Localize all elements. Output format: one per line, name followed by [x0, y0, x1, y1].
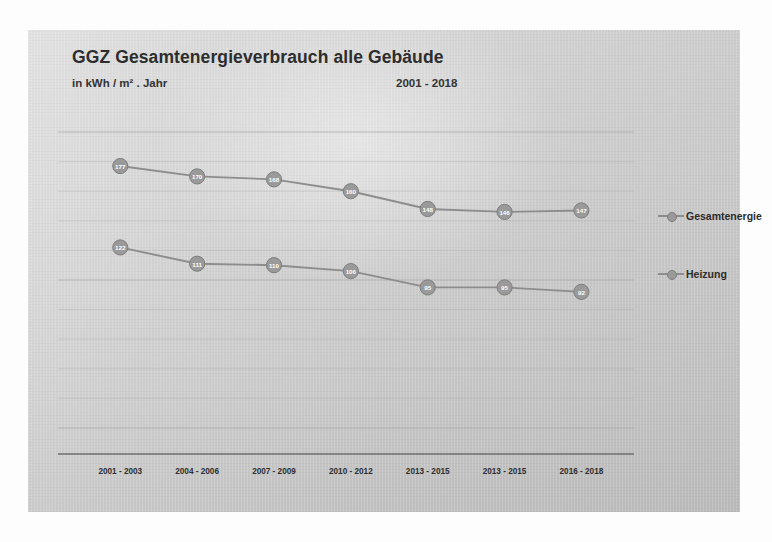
series-layer: 177170168160148146147122111110106959592: [113, 158, 589, 299]
data-point-label: 122: [115, 244, 126, 251]
legend-label: Gesamtenergie: [686, 210, 762, 222]
data-point-label: 177: [115, 163, 126, 170]
x-axis-label: 2001 - 2003: [98, 467, 142, 476]
legend-label: Heizung: [686, 268, 727, 280]
data-point-label: 168: [269, 176, 280, 183]
x-axis-labels: 2001 - 20032004 - 20062007 - 20092010 - …: [98, 467, 603, 476]
chart-photo-screen: GGZ Gesamtenergieverbrauch alle Gebäude …: [0, 0, 772, 542]
data-point-label: 111: [192, 261, 202, 268]
legend-item-heizung[interactable]: Heizung: [658, 266, 772, 282]
data-point-label: 92: [578, 289, 585, 296]
line-chart-svg: 177170168160148146147122111110106959592 …: [50, 98, 650, 498]
data-point-label: 160: [346, 188, 357, 195]
chart-subtitle: in kWh / m² . Jahr: [72, 77, 167, 89]
data-point-label: 148: [423, 206, 434, 213]
data-point-label: 106: [346, 268, 357, 275]
chart-period: 2001 - 2018: [396, 77, 457, 89]
x-axis-label: 2007 - 2009: [252, 467, 296, 476]
data-point-label: 170: [192, 173, 203, 180]
x-axis-label: 2013 - 2015: [483, 467, 527, 476]
circle-marker-icon: [658, 211, 684, 221]
chart-title: GGZ Gesamtenergieverbrauch alle Gebäude: [72, 47, 444, 68]
legend-item-gesamtenergie[interactable]: Gesamtenergie: [658, 208, 772, 224]
chart-panel: GGZ Gesamtenergieverbrauch alle Gebäude …: [28, 30, 740, 512]
chart-legend: Gesamtenergie Heizung: [658, 208, 772, 324]
circle-marker-icon: [658, 269, 684, 279]
x-axis-label: 2010 - 2012: [329, 467, 373, 476]
data-point-label: 95: [501, 284, 508, 291]
gridlines: [58, 132, 634, 428]
data-point-label: 147: [576, 207, 587, 214]
data-point-label: 110: [269, 262, 280, 269]
x-axis-label: 2016 - 2018: [560, 467, 604, 476]
data-point-label: 95: [424, 284, 431, 291]
plot-area: 177170168160148146147122111110106959592 …: [50, 98, 650, 498]
x-axis-label: 2013 - 2015: [406, 467, 450, 476]
data-point-label: 146: [499, 209, 510, 216]
x-axis-label: 2004 - 2006: [175, 467, 219, 476]
